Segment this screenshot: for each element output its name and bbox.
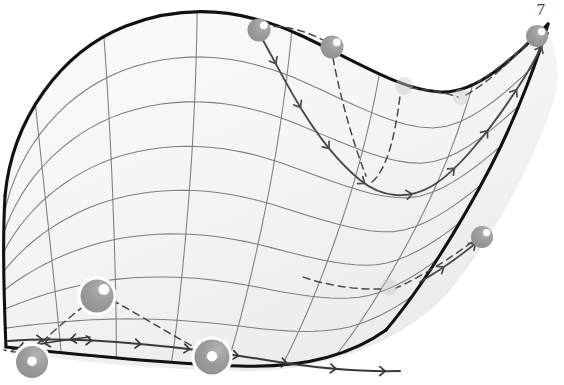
node-left-upper bbox=[77, 276, 116, 315]
node-left-upper-body bbox=[81, 280, 114, 313]
node-top-right-body bbox=[526, 25, 548, 47]
node-right-mid-specular-highlight bbox=[483, 229, 490, 236]
node-top-right bbox=[526, 25, 548, 47]
node-bottom-center bbox=[191, 336, 232, 377]
manifold-figure bbox=[0, 0, 564, 385]
node-bottom-center-center-highlight bbox=[207, 351, 218, 362]
node-right-mid-body bbox=[471, 226, 493, 248]
node-right-mid bbox=[471, 226, 493, 248]
node-behind-lower-body bbox=[453, 89, 469, 105]
node-behind-right-body bbox=[381, 279, 398, 296]
node-top-left-specular-highlight bbox=[260, 22, 268, 30]
node-top-right-specular-highlight bbox=[538, 28, 545, 35]
node-behind-right bbox=[381, 279, 398, 296]
figure-container: 7 bbox=[0, 0, 564, 385]
node-bottom-left-center-highlight bbox=[27, 356, 37, 366]
node-top-mid-body bbox=[321, 36, 344, 59]
node-top-mid-specular-highlight bbox=[333, 39, 341, 47]
node-behind-upper bbox=[395, 77, 413, 95]
page-number: 7 bbox=[537, 1, 546, 18]
node-top-left-body bbox=[248, 19, 271, 42]
surface-patch bbox=[4, 12, 558, 371]
node-behind-upper-body bbox=[395, 77, 413, 95]
node-behind-lower bbox=[453, 89, 469, 105]
node-left-upper-specular-highlight bbox=[98, 284, 109, 295]
node-top-left bbox=[248, 19, 271, 42]
node-top-mid bbox=[321, 36, 344, 59]
node-bottom-left bbox=[13, 343, 51, 381]
